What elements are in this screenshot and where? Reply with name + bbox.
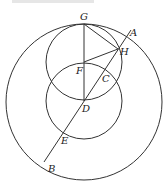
- label-E: E: [60, 135, 69, 146]
- label-A: A: [129, 27, 137, 38]
- label-G: G: [80, 11, 88, 22]
- label-C: C: [102, 73, 110, 84]
- segment-FH: [84, 49, 118, 62]
- label-H: H: [119, 46, 129, 57]
- segment-AB: [44, 30, 131, 162]
- geometry-diagram: G A H F C D E B: [0, 0, 168, 184]
- label-D: D: [81, 103, 90, 114]
- label-B: B: [47, 163, 55, 174]
- label-F: F: [75, 65, 84, 76]
